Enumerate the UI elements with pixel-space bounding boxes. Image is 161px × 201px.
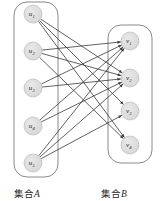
graph-node-v1[interactable]: v1 bbox=[121, 32, 139, 50]
graph-node-v4[interactable]: v4 bbox=[121, 136, 139, 154]
edge-line bbox=[40, 57, 124, 138]
edge-line bbox=[40, 47, 123, 120]
graph-node-u3[interactable]: u3 bbox=[24, 79, 42, 97]
edge-line bbox=[40, 84, 123, 157]
edge-lines bbox=[38, 19, 124, 159]
edge-arrowhead bbox=[119, 70, 123, 73]
graph-node-u2[interactable]: u2 bbox=[24, 42, 42, 60]
graph-edge bbox=[40, 57, 124, 138]
graph-edge bbox=[40, 84, 123, 157]
graph-node-v2[interactable]: v2 bbox=[121, 69, 139, 87]
node-subscript: 1 bbox=[129, 41, 131, 46]
graph-node-u1[interactable]: u1 bbox=[24, 5, 42, 23]
graph-node-u4[interactable]: u4 bbox=[24, 117, 42, 135]
graph-nodes: u1u2u3u4u5v1v2v3v4 bbox=[24, 5, 139, 172]
bipartite-graph-figure: u1u2u3u4u5v1v2v3v4 集合A 集合B bbox=[0, 0, 161, 201]
edge-line bbox=[42, 42, 121, 50]
graph-edge bbox=[40, 47, 123, 120]
edge-line bbox=[40, 21, 124, 105]
graph-node-u5[interactable]: u5 bbox=[24, 154, 42, 172]
node-subscript: 1 bbox=[33, 14, 35, 19]
graph-node-v3[interactable]: v3 bbox=[121, 102, 139, 120]
graph-edge bbox=[40, 21, 124, 105]
graph-canvas: u1u2u3u4u5v1v2v3v4 bbox=[0, 0, 161, 201]
